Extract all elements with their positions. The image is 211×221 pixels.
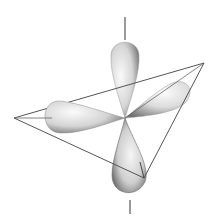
orbital-diagram-svg (0, 0, 211, 221)
right-lobe (125, 82, 190, 118)
bottom-lobe (112, 118, 146, 193)
top-lobe (111, 42, 139, 118)
left-lobe (45, 101, 125, 133)
orbital-diagram (0, 0, 211, 221)
tetrahedron-edge-right-bottom (144, 63, 204, 178)
